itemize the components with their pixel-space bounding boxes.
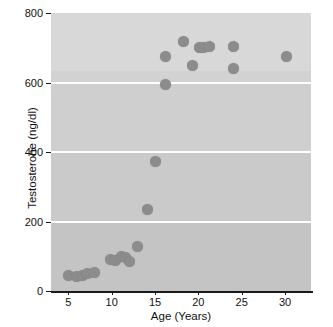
y-axis-tick — [46, 222, 51, 223]
gridline — [51, 221, 311, 223]
x-axis-tick-label: 25 — [236, 296, 248, 308]
data-point — [142, 204, 153, 215]
y-axis-tick — [46, 13, 51, 14]
plot-area — [51, 13, 311, 291]
background-band — [51, 82, 311, 152]
x-axis-tick — [68, 291, 69, 295]
data-point — [281, 51, 292, 62]
x-axis-tick — [198, 291, 199, 295]
y-axis-tick-label: 800 — [25, 7, 43, 19]
x-axis-tick-label: 10 — [106, 296, 118, 308]
x-axis-tick-label: 5 — [65, 296, 71, 308]
gridline — [51, 151, 311, 153]
x-axis-tick-label: 30 — [279, 296, 291, 308]
background-band — [51, 222, 311, 291]
x-axis-title: Age (Years) — [51, 310, 311, 322]
x-axis-tick — [112, 291, 113, 295]
y-axis-title: Testosterone (ng/dl) — [26, 68, 38, 248]
data-point — [160, 79, 171, 90]
data-point — [178, 36, 189, 47]
x-axis-tick — [155, 291, 156, 295]
background-band — [51, 71, 311, 82]
x-axis-tick — [242, 291, 243, 295]
gridline — [51, 82, 311, 84]
y-axis-tick — [46, 83, 51, 84]
x-axis-tick-label: 20 — [192, 296, 204, 308]
data-point — [187, 60, 198, 71]
y-axis-tick-label: 0 — [37, 285, 43, 297]
background-band — [51, 152, 311, 222]
x-axis-line — [51, 291, 313, 293]
y-axis-tick — [46, 152, 51, 153]
scatter-chart-figure: 51015202530 0200400600800 Age (Years) Te… — [0, 0, 333, 327]
x-axis-tick-label: 15 — [149, 296, 161, 308]
x-axis-tick — [285, 291, 286, 295]
data-point — [160, 51, 171, 62]
y-axis-tick — [46, 291, 51, 292]
